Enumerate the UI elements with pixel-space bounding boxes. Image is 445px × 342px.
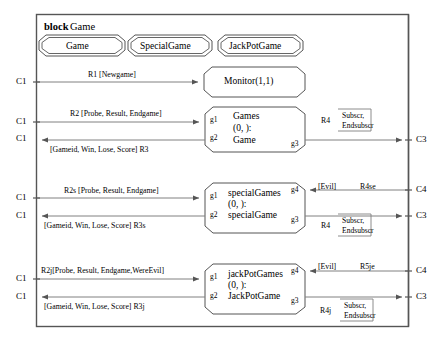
gateway-c1-jackpot-in[interactable]: C1 — [16, 274, 27, 283]
channel-r4se-label[interactable]: R4se — [360, 183, 376, 191]
channel-r3j-label[interactable]: [Gameid, Win, Lose, Score] R3j — [44, 303, 145, 311]
gateway-c1-games-in[interactable]: C1 — [16, 117, 27, 126]
games-agent-line3: Game — [233, 136, 256, 146]
jackpotgames-gate-g4: g4 — [291, 267, 299, 275]
block-name: Game — [70, 22, 95, 33]
monitor-agent-label[interactable]: Monitor(1,1) — [224, 77, 273, 87]
signal-list-r4-games-line2: Endsubscr — [342, 122, 374, 130]
specialgames-agent-line1[interactable]: specialGames — [228, 189, 281, 199]
gateway-c1-special-out[interactable]: C1 — [16, 211, 27, 220]
gateway-c3-jackpot[interactable]: C3 — [416, 292, 427, 301]
games-gate-g1: g1 — [210, 116, 218, 124]
specialgame-type-label[interactable]: SpecialGame — [140, 42, 191, 52]
sdl-block-diagram: block Game Game SpecialGame JackPotGame … — [0, 0, 445, 342]
specialgames-agent-line3: specialGame — [228, 211, 277, 221]
channel-r4j-label[interactable]: R4j — [320, 307, 331, 315]
gateway-c3-special[interactable]: C3 — [416, 211, 427, 220]
gateway-c1-special-in[interactable]: C1 — [16, 193, 27, 202]
diagram-canvas — [0, 0, 445, 342]
gateway-c1-jackpot-out[interactable]: C1 — [16, 292, 27, 301]
gateway-c1-monitor[interactable]: C1 — [16, 77, 27, 86]
signal-list-r4j-line1: Subscr, — [344, 302, 366, 310]
signal-list-r4-special-line1: Subscr, — [342, 217, 364, 225]
channel-r2s-label[interactable]: R2s [Probe, Result, Endgame] — [64, 187, 159, 195]
signal-list-r4-games-line1: Subscr, — [342, 112, 364, 120]
gateway-c1-games-out[interactable]: C1 — [16, 134, 27, 143]
channel-r5je-label[interactable]: R5je — [360, 263, 375, 271]
jackpotgames-gate-g3: g3 — [291, 297, 299, 305]
gateway-c3-games[interactable]: C3 — [416, 135, 427, 144]
channel-r3s-label[interactable]: [Gameid, Win, Lose, Score] R3s — [44, 222, 146, 230]
signal-list-r4-special-line2: Endsubscr — [342, 227, 374, 235]
evil-label-special: [Evil] — [318, 183, 336, 191]
channel-r1-label[interactable]: R1 [Newgame] — [88, 71, 136, 79]
signal-list-r4j-line2: Endsubscr — [344, 312, 376, 320]
jackpotgames-agent-line3: JackPotGame — [228, 292, 280, 302]
channel-r4-special-label[interactable]: R4 — [321, 222, 330, 230]
gateway-c4-special[interactable]: C4 — [416, 185, 427, 194]
jackpotgames-gate-g2: g2 — [210, 292, 218, 300]
specialgames-gate-g4: g4 — [291, 186, 299, 194]
gateway-c4-jackpot[interactable]: C4 — [416, 266, 427, 275]
jackpotgame-type-label[interactable]: JackPotGame — [229, 42, 281, 52]
specialgames-gate-g1: g1 — [210, 192, 218, 200]
channel-r3-label[interactable]: [Gameid, Win, Lose, Score] R3 — [50, 146, 149, 154]
jackpotgames-agent-line2: (0, ): — [228, 281, 246, 291]
channel-r2-label[interactable]: R2 [Probe, Result, Endgame] — [70, 110, 162, 118]
specialgames-agent-line2: (0, ): — [228, 200, 246, 210]
jackpotgames-agent-line1[interactable]: jackPotGames — [228, 270, 283, 280]
games-gate-g2: g2 — [210, 134, 218, 142]
channel-r4-games-label[interactable]: R4 — [321, 117, 330, 125]
specialgames-gate-g2: g2 — [210, 211, 218, 219]
block-keyword: block — [44, 22, 69, 33]
jackpotgames-gate-g1: g1 — [210, 273, 218, 281]
games-agent-line1[interactable]: Games — [233, 112, 259, 122]
game-type-label[interactable]: Game — [66, 42, 89, 52]
games-gate-g3: g3 — [291, 140, 299, 148]
channel-r2j-label[interactable]: R2j[Probe, Result, Endgame,WereEvil] — [41, 267, 164, 275]
games-agent-line2: (0, ): — [233, 124, 251, 134]
specialgames-gate-g3: g3 — [291, 216, 299, 224]
evil-label-jackpot: [Evil] — [318, 263, 336, 271]
